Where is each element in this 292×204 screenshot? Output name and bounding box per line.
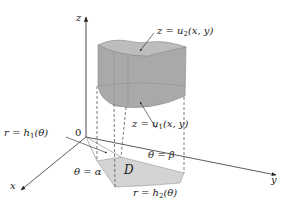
y-axis-label: y bbox=[271, 175, 277, 185]
theta-beta-label: θ = β bbox=[148, 150, 175, 160]
solid-region-diagram bbox=[0, 0, 292, 204]
theta-alpha-label: θ = α bbox=[74, 167, 102, 177]
x-axis bbox=[21, 137, 86, 190]
bottom-surface-label: z = u1(x, y) bbox=[132, 119, 188, 131]
leader-h1 bbox=[66, 137, 107, 153]
x-axis-label: x bbox=[10, 181, 16, 191]
region-d-label: D bbox=[124, 164, 134, 176]
region-d bbox=[97, 157, 184, 187]
theta-alpha-ray bbox=[86, 137, 97, 161]
origin-label: 0 bbox=[75, 128, 81, 138]
outer-curve-label: r = h2(θ) bbox=[133, 188, 177, 200]
proj-line bbox=[121, 107, 126, 157]
top-surface-label: z = u2(x, y) bbox=[157, 26, 213, 38]
z-axis-label: z bbox=[76, 13, 81, 23]
inner-curve-label: r = h1(θ) bbox=[4, 128, 48, 140]
